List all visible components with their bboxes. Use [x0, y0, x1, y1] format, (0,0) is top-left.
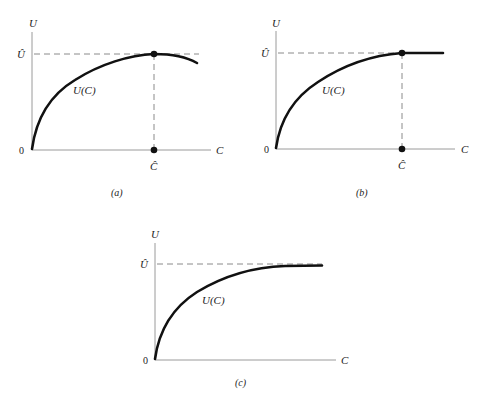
y-axis-label: U: [29, 17, 38, 29]
u-hat-label: Û: [17, 48, 26, 60]
panel-a: U Û 0 C Ĉ U(C) (a): [17, 17, 224, 199]
origin-label: 0: [19, 145, 24, 156]
y-axis-label: U: [151, 228, 160, 240]
curve-label: U(C): [322, 84, 345, 97]
caption: (c): [235, 377, 247, 389]
panel-c: U Û 0 C U(C) (c): [140, 228, 349, 389]
utility-figure: U Û 0 C Ĉ U(C) (a) U Û 0 C Ĉ U(C) (b) U …: [0, 0, 481, 400]
satiation-point: [399, 50, 406, 57]
x-axis-label: C: [341, 354, 349, 366]
y-axis-label: U: [272, 17, 281, 29]
origin-label: 0: [143, 355, 148, 366]
utility-curve: [155, 266, 322, 360]
utility-curve: [32, 54, 197, 149]
origin-label: 0: [264, 144, 269, 155]
x-axis-label: C: [216, 144, 224, 156]
curve-label: U(C): [202, 294, 225, 307]
x-axis-label: C: [461, 143, 469, 155]
max-point: [151, 51, 158, 58]
u-hat-label: Û: [261, 47, 270, 59]
caption: (b): [356, 187, 368, 199]
panel-b: U Û 0 C Ĉ U(C) (b): [261, 17, 469, 199]
c-hat-point: [151, 147, 158, 154]
curve-label: U(C): [73, 84, 96, 97]
c-hat-label: Ĉ: [398, 159, 406, 171]
u-hat-label: Û: [140, 258, 149, 270]
c-hat-point: [399, 146, 406, 153]
utility-curve: [276, 53, 443, 148]
c-hat-label: Ĉ: [150, 160, 158, 172]
caption: (a): [111, 187, 123, 199]
